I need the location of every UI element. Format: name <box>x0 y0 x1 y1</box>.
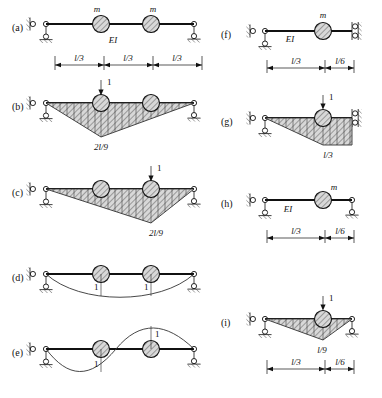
panel-i-unit-load: 1 <box>320 293 333 311</box>
panel-e-amplitude-label-1: 1 <box>94 359 99 369</box>
panel-a-dim-3: l/3 <box>172 53 182 63</box>
panel-c-mass-2 <box>143 181 160 198</box>
panel-a-mass-label-2: m <box>150 4 157 14</box>
panel-i-load-label: 1 <box>329 293 334 303</box>
panel-h-label: (h) <box>221 198 233 210</box>
panel-e-label: (e) <box>12 347 23 359</box>
panel-f-mass-label-1: m <box>320 10 327 20</box>
panel-b-influence-area <box>46 103 194 137</box>
panel-h: (h) m EI l/3 l/6 <box>221 182 359 243</box>
panel-i-dimensions: l/3 l/6 <box>267 357 354 374</box>
panel-f-mass-1 <box>315 23 332 40</box>
panel-b-unit-load: 1 <box>98 77 111 96</box>
panel-d-left-support <box>26 268 52 294</box>
panel-a-mass-1 <box>93 16 110 33</box>
panel-a: (a) m m EI l/3 <box>12 4 202 70</box>
panel-i-mass-1 <box>315 311 332 328</box>
panel-a-mass-label-1: m <box>94 4 101 14</box>
panel-g: (g) 1 <box>221 92 362 160</box>
panel-d-label: (d) <box>12 272 24 284</box>
panel-c-label: (c) <box>12 187 23 199</box>
panel-e-amplitude-label-2: 1 <box>155 329 160 339</box>
panel-h-left-support <box>246 194 271 220</box>
panel-c-left-support <box>26 183 52 209</box>
panel-a-mass-2 <box>143 16 160 33</box>
panel-g-label: (g) <box>221 116 233 128</box>
panel-c-ordinate-label: 2l/9 <box>149 228 164 238</box>
panel-f: (f) m EI l/3 l/6 <box>221 10 362 73</box>
panel-b-load-label: 1 <box>107 77 112 87</box>
panel-e: (e) 1 1 <box>12 326 201 372</box>
panel-f-right-support <box>352 22 362 40</box>
panel-b-label: (b) <box>12 101 24 113</box>
panel-a-label: (a) <box>12 22 23 34</box>
panel-g-mass-1 <box>315 110 332 127</box>
panel-h-dim-2: l/6 <box>335 226 345 236</box>
panel-c-unit-load: 1 <box>148 163 161 182</box>
panel-d-mode-curve <box>46 274 194 297</box>
panel-i-influence-area <box>265 319 352 340</box>
panel-c-influence-area <box>46 189 194 223</box>
panel-b-ordinate-label: 2l/9 <box>94 142 109 152</box>
panel-h-mass-1 <box>315 192 332 209</box>
panel-b-left-support <box>26 97 52 123</box>
panel-a-rigidity-label: EI <box>108 35 118 45</box>
panel-i-dim-1: l/3 <box>291 357 301 367</box>
panel-f-label: (f) <box>221 29 231 41</box>
panel-g-right-support <box>352 109 362 127</box>
panel-f-dim-1: l/3 <box>291 56 301 66</box>
panel-h-dim-1: l/3 <box>291 226 301 236</box>
panel-e-left-support <box>26 343 52 369</box>
panel-i-dim-2: l/6 <box>335 357 345 367</box>
panel-f-dimensions: l/3 l/6 <box>267 56 354 73</box>
panel-a-left-support <box>26 18 52 44</box>
panel-i-label: (i) <box>221 317 230 329</box>
panel-c: (c) <box>12 163 201 238</box>
panel-i: (i) 1 l/9 <box>221 293 359 374</box>
panel-d-amplitude-label-2: 1 <box>144 282 149 292</box>
panel-c-mass-1 <box>93 181 110 198</box>
panel-b-mass-1 <box>93 95 110 112</box>
panel-f-left-support <box>246 25 271 51</box>
panel-i-ordinate-label: l/9 <box>317 345 327 355</box>
panel-b-mass-2 <box>143 95 160 112</box>
structural-diagram-figure: (a) m m EI l/3 <box>0 0 382 398</box>
panel-d-amplitude-label-1: 1 <box>94 282 99 292</box>
panel-a-dim-1: l/3 <box>74 53 84 63</box>
panel-g-unit-load: 1 <box>320 92 333 110</box>
panel-b: (b) <box>12 77 201 152</box>
panel-c-load-label: 1 <box>157 163 162 173</box>
panel-f-dim-2: l/6 <box>335 56 345 66</box>
panel-a-dimensions: l/3 l/3 l/3 <box>55 53 202 70</box>
panel-g-ordinate-label: l/3 <box>323 150 333 160</box>
panel-g-left-support <box>246 112 271 138</box>
panel-h-dimensions: l/3 l/6 <box>267 226 354 243</box>
panel-a-dim-2: l/3 <box>123 53 133 63</box>
panel-h-mass-label-1: m <box>331 182 338 192</box>
panel-i-left-support <box>246 313 271 339</box>
panel-g-load-label: 1 <box>329 92 334 102</box>
panel-d: (d) 1 1 <box>12 266 201 298</box>
panel-f-rigidity-label: EI <box>285 34 295 44</box>
panel-h-rigidity-label: EI <box>283 204 293 214</box>
panel-g-influence-area <box>265 118 352 145</box>
